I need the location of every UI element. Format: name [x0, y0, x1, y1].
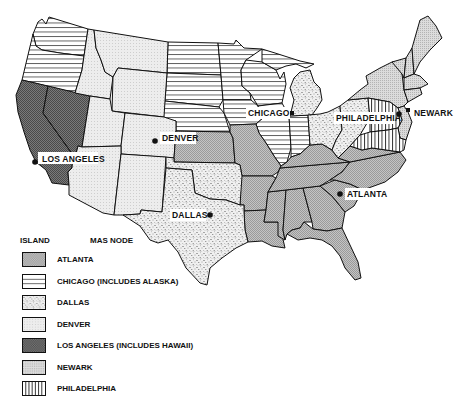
legend-item-philadelphia: PHILADELPHIA [20, 379, 260, 401]
swatch-newark-icon [22, 360, 46, 375]
svg-text:ATLANTA: ATLANTA [347, 189, 387, 199]
swatch-chicago-icon [22, 274, 46, 289]
swatch-philadelphia-icon [22, 381, 46, 396]
city-marker-philadelphia: PHILADELPHIA [334, 111, 402, 124]
swatch-denver-icon [22, 317, 46, 332]
swatch-dallas-icon [22, 295, 46, 310]
legend-item-los-angeles: LOS ANGELES (INCLUDES HAWAII) [20, 336, 260, 358]
legend-item-dallas: DALLAS [20, 293, 260, 315]
swatch-los-angeles-icon [22, 338, 46, 353]
legend-item-atlanta: ATLANTA [20, 250, 260, 272]
svg-text:NEWARK: NEWARK [414, 108, 454, 118]
legend-item-newark: NEWARK [20, 358, 260, 380]
legend-header-island: ISLAND [20, 236, 50, 245]
city-marker-dallas: DALLAS [170, 209, 213, 221]
svg-text:PHILADELPHIA: PHILADELPHIA [336, 113, 401, 123]
svg-text:LOS ANGELES: LOS ANGELES [42, 154, 105, 164]
legend-item-chicago: CHICAGO (INCLUDES ALASKA) [20, 272, 260, 294]
svg-text:DALLAS: DALLAS [172, 210, 208, 220]
legend-item-denver: DENVER [20, 315, 260, 337]
city-marker-newark: NEWARK [406, 106, 454, 118]
city-marker-los-angeles: LOS ANGELES [32, 152, 105, 165]
legend-header-mas-node: MAS NODE [90, 236, 133, 245]
svg-text:DENVER: DENVER [162, 133, 199, 143]
svg-text:CHICAGO: CHICAGO [248, 108, 290, 118]
city-marker-chicago: CHICAGO [246, 107, 294, 119]
map-legend: ISLAND MAS NODE ATLANTA CHICAGO (INCLUDE… [20, 236, 260, 401]
swatch-atlanta-icon [22, 252, 46, 267]
legend-header: ISLAND MAS NODE [20, 236, 260, 250]
